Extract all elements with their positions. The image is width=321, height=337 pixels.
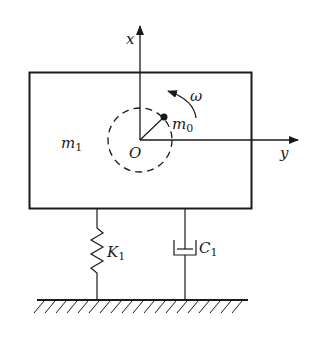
omega-label: ω <box>190 87 202 105</box>
c1-label: C1 <box>199 239 217 259</box>
x-axis-label: x <box>126 30 135 48</box>
m0-label: m0 <box>172 115 193 135</box>
origin-label: O <box>129 144 141 162</box>
y-axis-label: y <box>279 144 289 162</box>
ground-hatching <box>34 301 242 313</box>
damper-c1 <box>174 209 196 300</box>
eccentric-arm <box>140 117 164 140</box>
m1-label: m1 <box>61 134 82 154</box>
k1-label: K1 <box>106 243 125 263</box>
vibration-diagram: x y O ω m1 m0 K1 C1 <box>0 0 321 337</box>
spring-k1 <box>91 209 103 300</box>
eccentric-mass-dot <box>161 114 168 121</box>
